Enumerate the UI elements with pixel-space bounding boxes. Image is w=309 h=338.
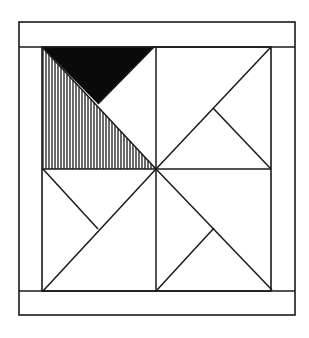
tr-branch-line <box>213 108 271 169</box>
quilt-block-svg <box>0 0 309 338</box>
bl-branch-line <box>43 169 98 229</box>
br-branch-line <box>157 228 214 290</box>
quilt-diagram <box>0 0 309 338</box>
